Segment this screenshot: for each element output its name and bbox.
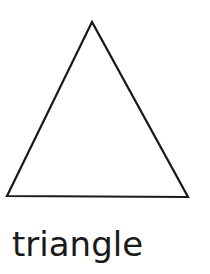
shape-label: triangle bbox=[12, 224, 143, 264]
triangle-outline bbox=[7, 22, 188, 197]
